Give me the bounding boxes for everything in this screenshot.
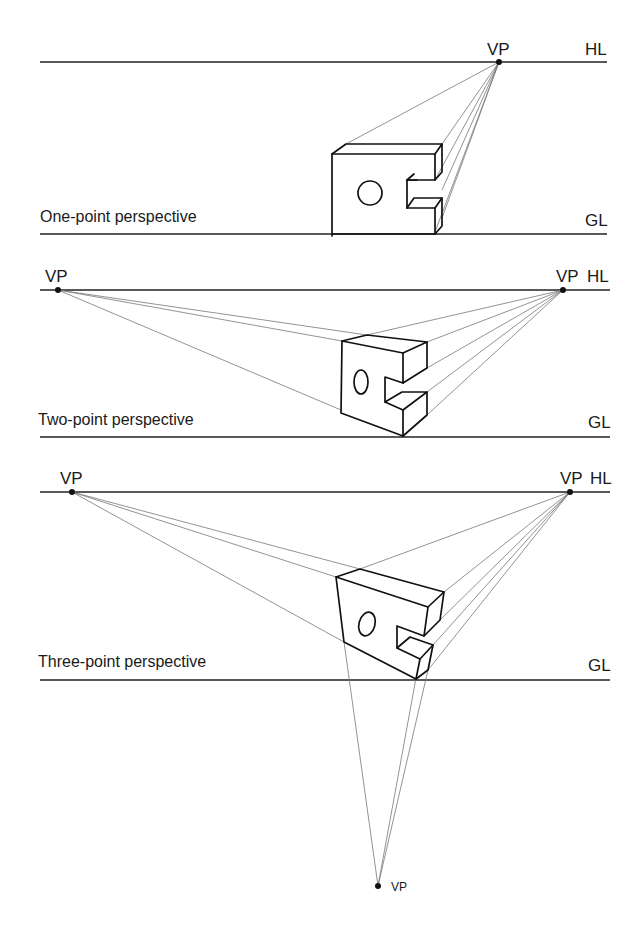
vanishing-point-right — [560, 287, 566, 293]
vanishing-point — [496, 59, 502, 65]
gl-label: GL — [585, 212, 608, 229]
panel-caption: Two-point perspective — [38, 412, 194, 428]
box-shape — [336, 569, 444, 679]
vanishing-point-left — [69, 489, 75, 495]
vanishing-point-left — [55, 287, 61, 293]
box-shape — [341, 335, 427, 436]
vp-label-left: VP — [45, 268, 68, 285]
perspective-diagram — [0, 0, 643, 927]
box-shape — [332, 144, 442, 236]
hl-label: HL — [590, 470, 612, 487]
construction-lines — [346, 62, 499, 232]
vp-label-right: VP — [556, 268, 579, 285]
vp-label: VP — [487, 41, 510, 58]
gl-label: GL — [588, 414, 611, 431]
construction-lines — [72, 492, 570, 886]
vp-label-right: VP — [560, 470, 583, 487]
vp-label-bottom: VP — [391, 881, 407, 893]
vp-label-left: VP — [60, 470, 83, 487]
construction-lines — [58, 290, 563, 415]
hl-label: HL — [585, 41, 607, 58]
hl-label: HL — [587, 268, 609, 285]
vanishing-point-right — [567, 489, 573, 495]
gl-label: GL — [588, 657, 611, 674]
vanishing-point-bottom — [375, 883, 381, 889]
three-point-panel — [40, 489, 610, 889]
panel-caption: One-point perspective — [40, 209, 197, 225]
panel-caption: Three-point perspective — [38, 654, 206, 670]
